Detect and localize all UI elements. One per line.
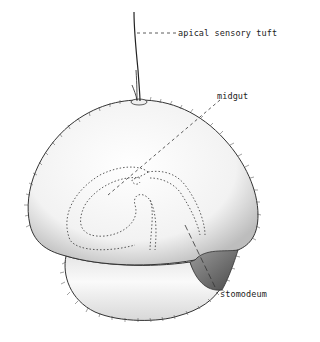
- apical-pore: [131, 99, 147, 105]
- label-stomodeum: stomodeum: [220, 289, 267, 299]
- label-midgut: midgut: [217, 91, 248, 101]
- label-apical-sensory-tuft: apical sensory tuft: [178, 28, 277, 38]
- body-dome: [28, 100, 258, 265]
